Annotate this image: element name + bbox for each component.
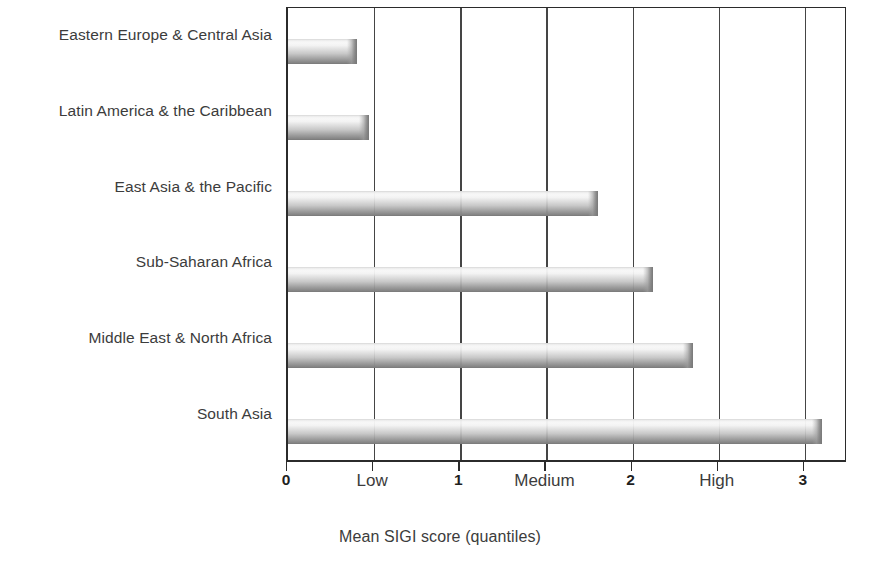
tickmark xyxy=(286,462,287,471)
gridline xyxy=(805,8,806,460)
value-axis-labels: 0Low1Medium2High3 xyxy=(0,472,880,500)
category-label: East Asia & the Pacific xyxy=(0,179,272,195)
tick-label-numeric: 3 xyxy=(799,472,808,488)
bar xyxy=(288,419,822,444)
bar xyxy=(288,39,357,64)
tick-label-numeric: 1 xyxy=(454,472,463,488)
bar xyxy=(288,191,598,216)
bar xyxy=(288,343,693,368)
gridline xyxy=(374,8,375,460)
category-label: Latin America & the Caribbean xyxy=(0,103,272,119)
category-label: Sub-Saharan Africa xyxy=(0,254,272,270)
gridline xyxy=(633,8,634,460)
tickmark xyxy=(717,462,718,471)
category-axis: Eastern Europe & Central AsiaLatin Ameri… xyxy=(0,7,272,462)
tick-label-band: Low xyxy=(357,472,388,489)
tick-label-band: High xyxy=(699,472,734,489)
bar xyxy=(288,115,369,140)
value-axis-tickmarks xyxy=(286,462,846,471)
tick-label-numeric: 2 xyxy=(626,472,635,488)
tickmark xyxy=(631,462,632,471)
tickmark xyxy=(372,462,373,471)
tickmark xyxy=(544,462,545,471)
plot-area xyxy=(286,7,846,462)
tick-label-numeric: 0 xyxy=(282,472,291,488)
category-label: South Asia xyxy=(0,406,272,422)
tickmark xyxy=(458,462,459,471)
category-label: Middle East & North Africa xyxy=(0,330,272,346)
gridline xyxy=(460,8,461,460)
category-label: Eastern Europe & Central Asia xyxy=(0,27,272,43)
bar xyxy=(288,267,653,292)
gridline xyxy=(719,8,720,460)
gridline xyxy=(546,8,547,460)
tickmark xyxy=(803,462,804,471)
sigi-bar-chart: Eastern Europe & Central AsiaLatin Ameri… xyxy=(0,0,880,564)
x-axis-title: Mean SIGI score (quantiles) xyxy=(0,528,880,546)
tick-label-band: Medium xyxy=(514,472,574,489)
